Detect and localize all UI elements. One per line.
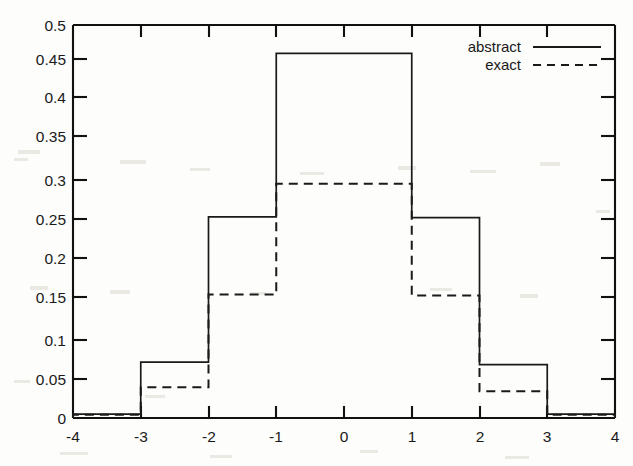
y-tick-label: 0.45 <box>36 51 66 68</box>
y-tick-label: 0.2 <box>44 250 66 267</box>
x-tick-label: 2 <box>476 428 485 445</box>
x-tick-label: -1 <box>269 428 283 445</box>
x-tick-label: -3 <box>134 428 148 445</box>
series-exact-steps <box>73 184 615 418</box>
x-tick-label: 4 <box>611 428 620 445</box>
x-tick-label: 3 <box>543 428 552 445</box>
legend-label-exact: exact <box>485 56 522 73</box>
y-tick-label: 0.05 <box>36 371 66 388</box>
chart-figure: 0.5 0.45 0.4 0.35 0.3 0.25 0.2 0.15 0.1 … <box>0 0 633 466</box>
x-tick-label: 1 <box>408 428 417 445</box>
x-tick-label: 0 <box>340 428 349 445</box>
y-tick-marks-right <box>601 59 615 379</box>
y-tick-label: 0 <box>57 410 66 427</box>
legend: abstract exact <box>432 34 610 74</box>
x-tick-label: -4 <box>66 428 80 445</box>
scan-noise <box>14 150 610 459</box>
y-tick-label: 0.15 <box>36 289 66 306</box>
x-tick-label: -2 <box>202 428 216 445</box>
legend-background <box>432 34 610 74</box>
y-tick-label: 0.1 <box>44 332 66 349</box>
x-tick-marks <box>141 25 547 418</box>
series-abstract-steps <box>73 53 615 418</box>
y-tick-label: 0.5 <box>44 17 66 34</box>
histogram-plot: 0.5 0.45 0.4 0.35 0.3 0.25 0.2 0.15 0.1 … <box>0 0 633 466</box>
y-tick-label: 0.4 <box>44 89 66 106</box>
y-tick-label: 0.3 <box>44 172 66 189</box>
x-tick-labels: -4 -3 -2 -1 0 1 2 3 4 <box>66 428 620 445</box>
legend-label-abstract: abstract <box>468 38 522 55</box>
y-tick-marks <box>73 59 87 379</box>
y-tick-label: 0.25 <box>36 211 66 228</box>
y-tick-labels: 0.5 0.45 0.4 0.35 0.3 0.25 0.2 0.15 0.1 … <box>36 17 67 427</box>
y-tick-label: 0.35 <box>36 128 66 145</box>
